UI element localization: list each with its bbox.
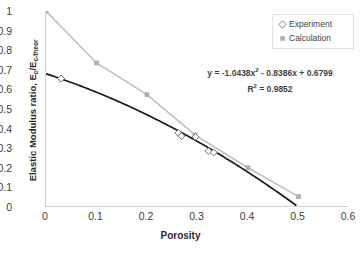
y-tick-label: 0.9 bbox=[0, 26, 12, 36]
y-axis-title-main: Elastic Modulus ratio, E bbox=[27, 74, 38, 181]
legend-label-calculation: Calculation bbox=[289, 32, 331, 44]
x-axis-title: Porosity bbox=[0, 230, 361, 241]
experiment-data-point bbox=[58, 75, 65, 82]
trendline-equation-annotation: y = -1.0438x2 - 0.8386x + 0.6799 R2 = 0.… bbox=[186, 64, 354, 96]
filled-square-marker-icon bbox=[277, 34, 288, 43]
equation-line: y = -1.0438x2 - 0.8386x + 0.6799 bbox=[186, 64, 354, 80]
open-diamond-marker-icon bbox=[277, 20, 288, 29]
calculation-data-point bbox=[94, 61, 99, 66]
y-tick-label: 0.8 bbox=[0, 45, 12, 55]
calculation-data-point bbox=[46, 11, 48, 13]
r-squared-rest: = 0.9852 bbox=[257, 84, 293, 94]
y-axis-title-sub1: c bbox=[32, 71, 39, 75]
legend-item-experiment[interactable]: Experiment bbox=[277, 18, 351, 30]
chart-legend: Experiment Calculation bbox=[272, 14, 354, 49]
y-tick-label: 0.4 bbox=[0, 124, 12, 134]
calculation-data-point bbox=[145, 92, 150, 97]
x-tick-label: 0.1 bbox=[76, 210, 116, 222]
y-tick-label: 0.5 bbox=[0, 104, 12, 114]
calculation-data-point bbox=[246, 165, 251, 170]
y-axis-title-sub2: c-theor bbox=[32, 40, 39, 62]
y-tick-label: 0.3 bbox=[0, 143, 12, 153]
y-tick-label: 1 bbox=[0, 6, 12, 16]
y-tick-label: 0.6 bbox=[0, 84, 12, 94]
chart-container: 1 0.9 0.8 0.7 0.6 0.5 0.4 0.3 0.2 0.1 0 … bbox=[0, 0, 361, 254]
calculation-series-line bbox=[46, 11, 299, 197]
x-tick-label: 0.5 bbox=[278, 210, 318, 222]
legend-item-calculation[interactable]: Calculation bbox=[277, 32, 351, 44]
x-tick-label: 0.3 bbox=[177, 210, 217, 222]
x-tick-label: 0.6 bbox=[328, 210, 361, 222]
y-axis-title: Elastic Modulus ratio, Ec/Ec-theor bbox=[27, 15, 40, 205]
y-axis-title-mid: /E bbox=[27, 62, 38, 71]
calculation-data-point bbox=[296, 194, 301, 199]
equation-rest: - 0.8386x + 0.6799 bbox=[259, 68, 333, 78]
r-squared-line: R2 = 0.9852 bbox=[186, 80, 354, 96]
y-tick-label: 0.7 bbox=[0, 65, 12, 75]
x-tick-label: 0.2 bbox=[126, 210, 166, 222]
equation-prefix: y = -1.0438x bbox=[207, 68, 255, 78]
y-tick-label: 0 bbox=[0, 202, 12, 212]
x-tick-label: 0.4 bbox=[227, 210, 267, 222]
legend-label-experiment: Experiment bbox=[289, 18, 332, 30]
y-tick-label: 0.1 bbox=[0, 182, 12, 192]
x-tick-label: 0 bbox=[25, 210, 65, 222]
y-tick-label: 0.2 bbox=[0, 163, 12, 173]
